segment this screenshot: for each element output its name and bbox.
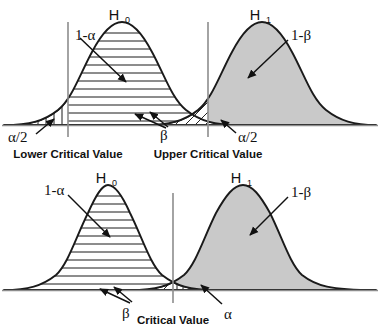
- critical-value-caption: Critical Value: [137, 314, 209, 326]
- null-hypothesis-subscript-bottom: 0: [112, 178, 117, 188]
- hypothesis-test-figure: H 0 H 1 1-α 1-β α/2 α/2 β Lower Critical…: [0, 0, 380, 327]
- power-label-bottom: 1-β: [291, 184, 311, 200]
- panel-two-tailed-test: H 0 H 1 1-α 1-β α/2 α/2 β Lower Critical…: [0, 0, 380, 163]
- alternative-distribution-bottom: [130, 185, 376, 290]
- alpha-right-tail-hatch-top: [4, 0, 380, 163]
- upper-critical-value-caption: Upper Critical Value: [154, 148, 263, 160]
- alt-hypothesis-subscript-bottom: 1: [247, 178, 252, 188]
- alt-hypothesis-label-bottom: H: [231, 170, 241, 186]
- beta-label-bottom: β: [122, 305, 130, 321]
- alpha-left-label-top: α/2: [8, 129, 28, 145]
- null-hypothesis-label-bottom: H: [96, 170, 106, 186]
- lower-critical-value-caption: Lower Critical Value: [13, 148, 122, 160]
- alt-hypothesis-subscript-top: 1: [266, 15, 271, 25]
- null-hypothesis-subscript-top: 0: [125, 15, 130, 25]
- confidence-label-top: 1-α: [75, 27, 95, 43]
- panel-one-tailed-test: H 0 H 1 1-α 1-β β α Critical Value: [0, 163, 380, 327]
- alt-hypothesis-label-top: H: [250, 7, 260, 23]
- power-label-top: 1-β: [291, 27, 311, 43]
- null-hypothesis-label-top: H: [109, 7, 119, 23]
- beta-label-top: β: [160, 127, 168, 143]
- confidence-label-bottom: 1-α: [44, 182, 64, 198]
- alpha-right-label-top: α/2: [238, 129, 258, 145]
- alpha-label-bottom: α: [224, 306, 232, 322]
